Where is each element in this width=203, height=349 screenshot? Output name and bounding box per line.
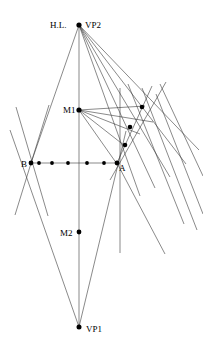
line-vp2-to-b [31, 25, 79, 163]
vp2-ray-5 [79, 25, 199, 150]
label-vp2: VP2 [85, 20, 101, 30]
dot-baseline-1 [37, 161, 41, 165]
label-m2: M2 [60, 228, 73, 238]
label-vp1: VP1 [86, 324, 102, 334]
dot-baseline-3 [66, 161, 70, 165]
m1-ray-to-upper-point [79, 106, 145, 110]
line-vp1-to-a-extended [79, 131, 126, 327]
m1-ray-to-point-a [79, 110, 125, 146]
dot-m2 [77, 230, 82, 235]
dot-baseline-4 [85, 161, 89, 165]
dot-right-chain-3 [123, 143, 128, 148]
dot-baseline-2 [50, 161, 54, 165]
label-m1: M1 [63, 105, 76, 115]
right-diagonal-3 [156, 94, 203, 214]
dot-m1 [76, 107, 81, 112]
dot-baseline-5 [102, 161, 106, 165]
vp2-ray-fan [79, 25, 199, 196]
perspective-construction-drawing: H.L. VP2 M1 B A M2 VP1 [0, 0, 203, 349]
perspective-diagram-root: H.L. VP2 M1 B A M2 VP1 [0, 0, 203, 349]
dot-vp2 [76, 22, 81, 27]
m1-ray-to-baseline-a [79, 110, 117, 164]
m1-ray-to-mid-point [79, 110, 153, 122]
vertex-dots-layer [29, 22, 145, 329]
label-horizon-line: H.L. [50, 20, 67, 30]
dot-right-chain-1 [140, 105, 145, 110]
right-diagonal-5 [160, 84, 203, 176]
label-point-b: B [21, 159, 27, 169]
dot-point-b [29, 161, 34, 166]
m1-ray-fan [79, 106, 153, 164]
vp2-ray-1 [79, 25, 140, 196]
dot-vp1 [77, 325, 82, 330]
dot-right-chain-2 [128, 125, 133, 130]
label-point-a: A [119, 163, 126, 173]
m1-ray-to-lower-point [79, 110, 140, 134]
construction-lines-layer [10, 25, 203, 327]
right-diagonal-4 [117, 163, 165, 254]
